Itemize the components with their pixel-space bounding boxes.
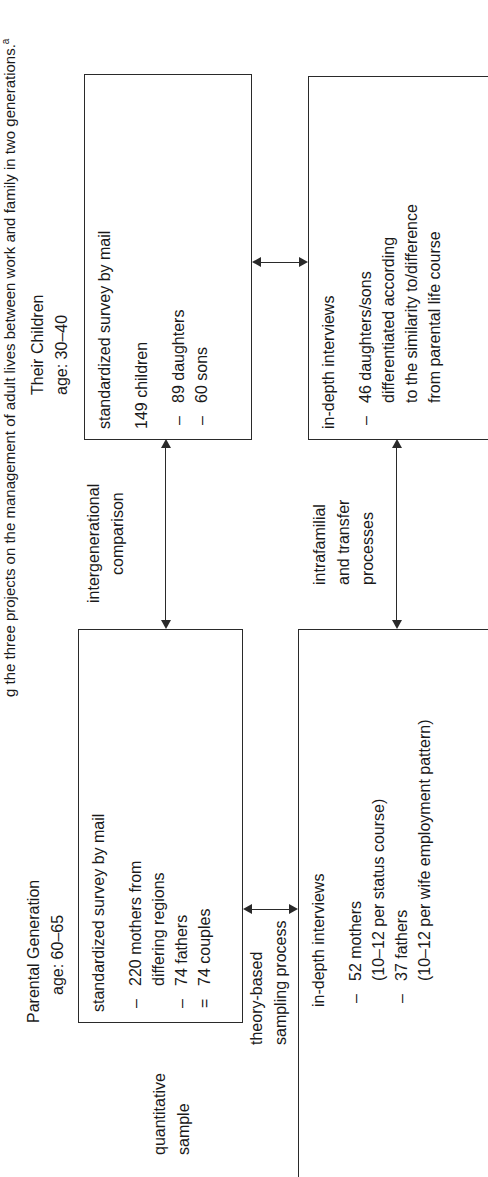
box-parental-survey: standardized survey by mail – 220 mother… [78, 629, 243, 1023]
list-item: = 74 couples [193, 640, 216, 1012]
column-header-parental: Parental Generation age: 60–65 [22, 880, 70, 1023]
box-title: in-depth interviews [317, 87, 340, 429]
box-parental-interviews: in-depth interviews – 52 mothers (10–12 … [298, 629, 488, 1177]
arrow-down-icon [289, 904, 298, 914]
intrafamilial-connector-line [396, 447, 397, 623]
arrow-left-icon [161, 620, 171, 629]
parental-vertical-connector-line [248, 909, 292, 910]
row-label-sampling: theory-based sampling process [245, 921, 293, 1046]
column-header-children: Their Children age: 30–40 [26, 295, 74, 395]
list-item: – 89 daughters [167, 85, 190, 429]
intergenerational-connector-line [165, 447, 166, 623]
box-title: standardized survey by mail [87, 640, 110, 1012]
parental-title: Parental Generation [22, 880, 46, 1023]
arrow-up-icon [252, 257, 261, 267]
parental-age: age: 60–65 [46, 880, 70, 1023]
arrow-left-icon [392, 620, 402, 629]
children-age: age: 30–40 [50, 295, 74, 395]
figure-caption: g the three projects on the management o… [0, 39, 18, 697]
item-list: – 46 daughters/sons differentiated accor… [354, 87, 446, 429]
children-title: Their Children [26, 295, 50, 395]
arrow-right-icon [392, 439, 402, 448]
box-children-interviews: in-depth interviews – 46 daughters/sons … [308, 76, 488, 440]
connector-label-intergenerational: intergenerational comparison [82, 484, 130, 603]
item-list: – 220 mothers from differing regions – 7… [124, 640, 216, 1012]
list-item: – 52 mothers (10–12 per status course) [344, 640, 390, 1007]
box-children-survey: standardized survey by mail 149 children… [84, 74, 252, 440]
list-item: – 220 mothers from differing regions [124, 640, 170, 1012]
list-item: – 37 fathers (10–12 per wife employment … [390, 640, 436, 1007]
caption-footnote-marker: a [0, 39, 11, 45]
list-item: – 60 sons [190, 85, 213, 429]
box-title: standardized survey by mail [93, 85, 116, 429]
box-title: in-depth interviews [307, 640, 330, 1167]
connector-label-intrafamilial: intrafamilial and transfer processes [308, 500, 380, 585]
row-label-quantitative: quantitative sample [148, 1073, 196, 1155]
list-item: – 74 fathers [170, 640, 193, 1012]
list-item: – 46 daughters/sons differentiated accor… [354, 87, 446, 429]
item-list: – 89 daughters – 60 sons [167, 85, 213, 429]
arrow-down-icon [299, 257, 308, 267]
caption-text: g the three projects on the management o… [1, 44, 18, 697]
arrow-right-icon [161, 439, 171, 448]
children-vertical-connector-line [257, 262, 302, 263]
item-list: – 52 mothers (10–12 per status course) –… [344, 640, 436, 1167]
children-count: 149 children [130, 85, 153, 429]
arrow-up-icon [243, 904, 252, 914]
